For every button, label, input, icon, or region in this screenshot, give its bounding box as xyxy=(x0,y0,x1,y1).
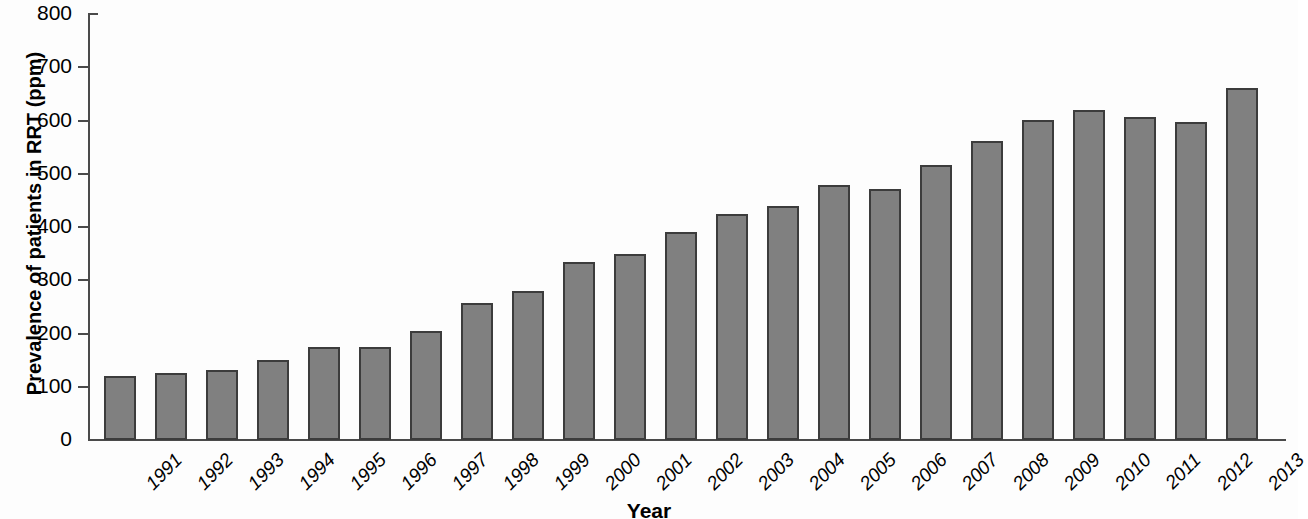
bar xyxy=(818,185,849,440)
x-tick-label: 1993 xyxy=(243,449,288,494)
y-tick-label: 500 xyxy=(2,161,72,185)
x-tick-label: 2007 xyxy=(957,449,1002,494)
x-tick-label: 2004 xyxy=(804,449,849,494)
x-tick-label: 2009 xyxy=(1059,449,1104,494)
bar xyxy=(920,165,951,440)
y-axis-ticks: 0100200300400500600700800 xyxy=(0,0,89,519)
x-tick-label: 2006 xyxy=(906,449,951,494)
bar xyxy=(410,331,441,440)
bar xyxy=(512,291,543,440)
x-tick-label: 1999 xyxy=(549,449,594,494)
x-tick-label: 2001 xyxy=(651,449,696,494)
bar xyxy=(257,360,288,440)
bar xyxy=(359,347,390,440)
bar xyxy=(461,303,492,440)
x-tick-label: 2005 xyxy=(855,449,900,494)
bar xyxy=(1226,88,1257,441)
y-tick-label: 300 xyxy=(2,267,72,291)
bar xyxy=(716,214,747,440)
y-tick-label: 200 xyxy=(2,321,72,345)
y-tick-label: 400 xyxy=(2,214,72,238)
x-tick-label: 2000 xyxy=(600,449,645,494)
x-tick-label: 2003 xyxy=(753,449,798,494)
bar xyxy=(1022,120,1053,440)
bar xyxy=(1124,117,1155,440)
bar xyxy=(869,189,900,440)
x-tick-label: 1995 xyxy=(345,449,390,494)
x-tick-label: 1997 xyxy=(447,449,492,494)
x-tick-label: 2011 xyxy=(1161,449,1205,493)
x-tick-label: 1992 xyxy=(192,449,237,494)
x-tick-label: 2002 xyxy=(702,449,747,494)
x-tick-label: 2010 xyxy=(1110,449,1155,494)
x-tick-label: 2012 xyxy=(1212,449,1257,494)
x-tick-label: 2013 xyxy=(1263,449,1308,494)
x-tick-label: 1994 xyxy=(294,449,339,494)
bar xyxy=(155,373,186,440)
bar xyxy=(614,254,645,440)
y-tick-label: 600 xyxy=(2,108,72,132)
x-tick-label: 1996 xyxy=(396,449,441,494)
bar xyxy=(767,206,798,440)
bar xyxy=(563,262,594,440)
bar xyxy=(308,347,339,440)
bar xyxy=(1175,122,1206,440)
y-tick-label: 800 xyxy=(2,1,72,25)
bar-series xyxy=(89,14,1285,440)
y-tick-label: 700 xyxy=(2,54,72,78)
x-tick-label: 1998 xyxy=(498,449,543,494)
bar xyxy=(1073,110,1104,440)
bar xyxy=(971,141,1002,440)
y-tick-label: 100 xyxy=(2,374,72,398)
x-tick-label: 2008 xyxy=(1008,449,1053,494)
x-tick-label: 1991 xyxy=(141,449,186,494)
y-tick-label: 0 xyxy=(2,427,72,451)
x-axis-title: Year xyxy=(0,499,1298,519)
bar xyxy=(206,370,237,440)
bar xyxy=(665,232,696,440)
bar xyxy=(104,376,135,440)
